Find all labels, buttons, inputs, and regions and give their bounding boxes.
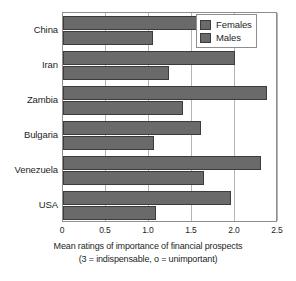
y-axis-label-usa: USA bbox=[0, 200, 58, 210]
x-tick-label: 0 bbox=[60, 225, 65, 235]
bar-females-iran bbox=[63, 51, 235, 65]
bar-males-iran bbox=[63, 66, 169, 80]
bar-females-venezuela bbox=[63, 156, 261, 170]
x-tick-label: 1.0 bbox=[142, 225, 154, 235]
legend-item-males: Males bbox=[200, 31, 252, 44]
bar-females-zambia bbox=[63, 86, 267, 100]
bar-males-china bbox=[63, 31, 153, 45]
legend-label: Males bbox=[216, 33, 241, 43]
legend-item-females: Females bbox=[200, 18, 252, 31]
bar-males-usa bbox=[63, 206, 156, 220]
x-axis-tick-labels: 00.51.01.52.02.5 bbox=[0, 225, 296, 237]
legend-swatch-icon-females bbox=[200, 20, 211, 30]
bar-males-zambia bbox=[63, 101, 183, 115]
gridline bbox=[277, 13, 278, 221]
y-axis-label-bulgaria: Bulgaria bbox=[0, 130, 58, 140]
bar-females-bulgaria bbox=[63, 121, 201, 135]
y-axis-label-iran: Iran bbox=[0, 60, 58, 70]
legend: FemalesMales bbox=[196, 14, 257, 48]
y-axis-label-china: China bbox=[0, 25, 58, 35]
x-tick-label: 1.5 bbox=[185, 225, 197, 235]
y-axis-category-labels: ChinaIranZambiaBulgariaVenezuelaUSA bbox=[0, 12, 58, 222]
bar-females-china bbox=[63, 16, 201, 30]
x-tick-label: 0.5 bbox=[99, 225, 111, 235]
x-tick-label: 2.0 bbox=[228, 225, 240, 235]
legend-label: Females bbox=[216, 20, 252, 30]
bar-males-venezuela bbox=[63, 171, 204, 185]
y-axis-label-venezuela: Venezuela bbox=[0, 165, 58, 175]
x-axis-label-line2: (3 = indispensable, o = unimportant) bbox=[0, 253, 296, 266]
x-axis-caption: Mean ratings of importance of financial … bbox=[0, 240, 296, 266]
x-axis-label-line1: Mean ratings of importance of financial … bbox=[0, 240, 296, 253]
chart-figure: ChinaIranZambiaBulgariaVenezuelaUSA Fema… bbox=[0, 0, 296, 281]
bar-females-usa bbox=[63, 191, 231, 205]
x-tick-label: 2.5 bbox=[271, 225, 283, 235]
bar-males-bulgaria bbox=[63, 136, 154, 150]
y-axis-label-zambia: Zambia bbox=[0, 95, 58, 105]
legend-swatch-icon-males bbox=[200, 33, 211, 43]
